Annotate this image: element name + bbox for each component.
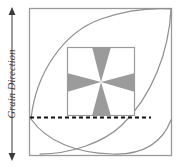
lower-deformation-curve bbox=[31, 119, 171, 154]
figure-canvas bbox=[0, 0, 182, 168]
arrow-down-icon bbox=[9, 153, 16, 161]
grain-direction-axis bbox=[9, 7, 16, 161]
grain-direction-figure: Grain Direction bbox=[0, 0, 182, 168]
arrow-up-icon bbox=[9, 7, 16, 15]
